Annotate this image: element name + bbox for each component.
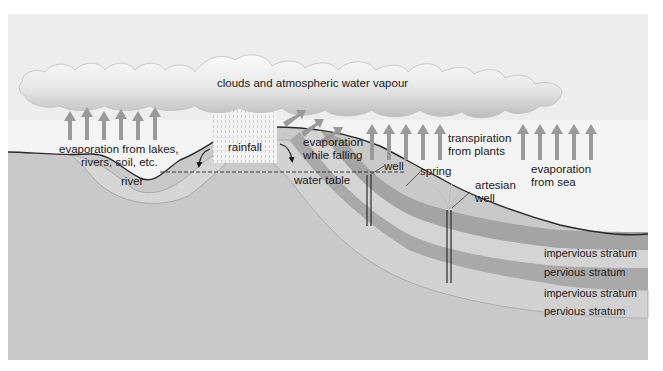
stratum-label-impervious-1: impervious stratum	[544, 247, 637, 259]
evap-sea-label-1: evaporation	[531, 163, 591, 175]
artesian-label-2: well	[474, 192, 495, 204]
stratum-label-pervious-1: pervious stratum	[544, 266, 625, 278]
artesian-label-1: artesian	[475, 179, 516, 191]
river-label: river	[121, 175, 144, 187]
evap-sea-label-2: from sea	[531, 176, 576, 188]
water-table-label: water table	[293, 174, 350, 186]
evap-falling-label-2: while falling	[302, 149, 362, 161]
stratum-label-impervious-2: impervious stratum	[544, 287, 637, 299]
stratum-label-pervious-2: pervious stratum	[544, 305, 625, 317]
water-cycle-diagram: clouds and atmospheric water vapour evap…	[0, 0, 663, 371]
transpiration-label-1: transpiration	[448, 132, 511, 144]
well-label: well	[383, 160, 404, 172]
transpiration-label-2: from plants	[448, 145, 505, 157]
clouds-label: clouds and atmospheric water vapour	[217, 77, 408, 89]
evap-falling-label-1: evaporation	[303, 136, 363, 148]
rainfall-label: rainfall	[228, 141, 262, 153]
spring-label: spring	[420, 165, 451, 177]
evap-lakes-label-2: rivers, soil, etc.	[81, 156, 158, 168]
evap-lakes-label-1: evaporation from lakes,	[59, 143, 179, 155]
